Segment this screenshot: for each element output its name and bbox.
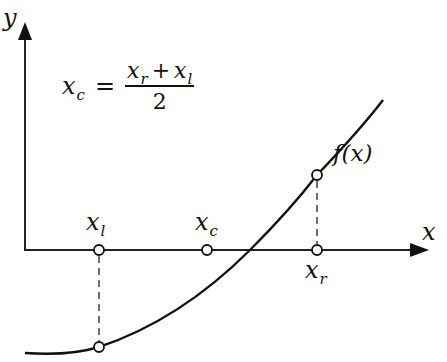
xr-curve-point <box>312 170 322 180</box>
formula-lhs: xc <box>62 72 85 100</box>
xl-label-base: x <box>86 208 100 236</box>
formula-lhs-base: x <box>62 72 76 100</box>
numerator-plus: + <box>152 58 170 83</box>
xr-axis-point <box>312 245 322 255</box>
xl-axis-point <box>94 245 104 255</box>
numerator-a-sub: r <box>140 70 147 88</box>
xc-axis-point <box>202 245 212 255</box>
bisection-diagram <box>0 0 447 362</box>
xc-label: xc <box>195 208 218 236</box>
y-axis-arrow-icon <box>18 22 32 40</box>
xl-label: xl <box>86 208 105 236</box>
xc-label-sub: c <box>210 222 218 240</box>
formula-equals: = <box>95 72 115 100</box>
y-axis-label: y <box>3 4 17 32</box>
xr-label: xr <box>305 256 327 284</box>
xl-curve-point <box>94 342 104 352</box>
numerator-a: x <box>127 58 139 83</box>
numerator-b: x <box>174 58 186 83</box>
formula-fraction: xr+xl 2 <box>125 58 194 114</box>
x-axis-label: x <box>422 218 436 246</box>
formula-lhs-sub: c <box>77 86 85 104</box>
formula-numerator: xr+xl <box>125 58 194 85</box>
numerator-b-sub: l <box>188 70 193 88</box>
midpoint-formula: xc = xr+xl 2 <box>62 58 194 114</box>
xl-label-sub: l <box>101 222 106 240</box>
xc-label-base: x <box>195 208 209 236</box>
formula-denominator: 2 <box>153 87 167 114</box>
curve-label: f(x) <box>333 140 372 166</box>
xr-label-base: x <box>305 256 319 284</box>
xr-label-sub: r <box>320 270 327 288</box>
